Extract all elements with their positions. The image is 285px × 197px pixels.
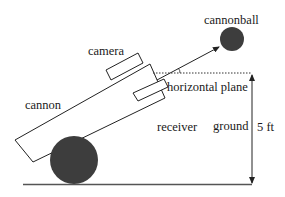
cannon-wheel: [50, 136, 98, 184]
ground-label: ground: [213, 120, 248, 133]
cannon-label: cannon: [25, 99, 61, 112]
receiver-label: receiver: [157, 121, 197, 134]
horizontal-plane-label: horizontal plane: [167, 81, 248, 94]
cannonball-circle: [220, 27, 244, 51]
launch-angle-arc: [178, 68, 180, 73]
height-value-label: 5 ft: [257, 121, 274, 134]
camera-label: camera: [88, 45, 124, 58]
cannonball-label: cannonball: [204, 14, 259, 27]
trajectory-arrow: [157, 47, 219, 80]
